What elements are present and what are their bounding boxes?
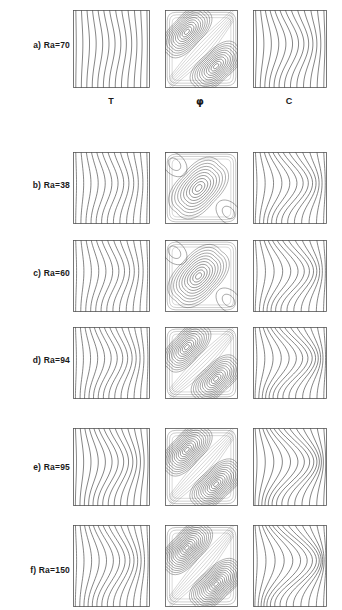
panel-a-concentration <box>253 10 327 88</box>
panel-b-concentration <box>253 152 327 224</box>
row-label-a: a) Ra=70 <box>4 40 70 50</box>
panel-d-temperature <box>73 327 150 399</box>
panel-f-temperature <box>73 525 150 607</box>
panel-f-streamfunction <box>165 525 238 607</box>
panel-d-concentration <box>253 327 327 399</box>
panel-b-temperature <box>73 152 150 224</box>
row-label-d: d) Ra=94 <box>4 355 70 365</box>
panel-c-temperature <box>73 240 150 312</box>
panel-d-streamfunction <box>165 327 238 399</box>
contour-figure: TφCa) Ra=70b) Ra=38c) Ra=60d) Ra=94e) Ra… <box>0 0 342 610</box>
row-label-e: e) Ra=95 <box>4 462 70 472</box>
panel-e-temperature <box>73 428 150 506</box>
column-header-concentration: C <box>269 96 309 106</box>
row-label-b: b) Ra=38 <box>4 180 70 190</box>
panel-c-concentration <box>253 240 327 312</box>
row-label-f: f) Ra=150 <box>4 565 70 575</box>
panel-a-streamfunction <box>165 10 238 88</box>
panel-a-temperature <box>73 10 150 88</box>
column-header-streamfunction: φ <box>180 96 220 107</box>
panel-e-concentration <box>253 428 327 506</box>
panel-c-streamfunction <box>165 240 238 312</box>
column-headers: TφC <box>0 96 342 112</box>
column-header-temperature: T <box>91 96 131 106</box>
row-label-c: c) Ra=60 <box>4 268 70 278</box>
panel-f-concentration <box>253 525 327 607</box>
panel-b-streamfunction <box>165 152 238 224</box>
panel-e-streamfunction <box>165 428 238 506</box>
